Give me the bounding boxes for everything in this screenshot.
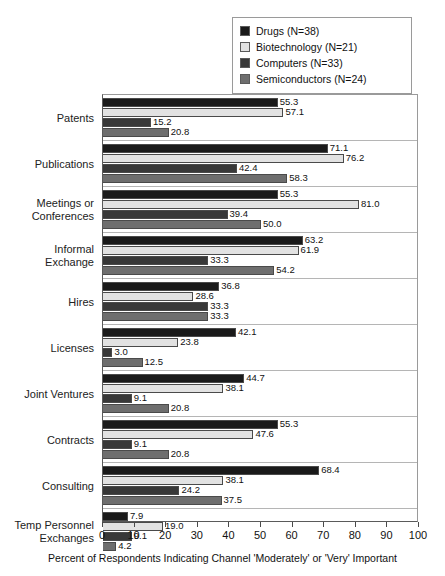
x-axis-tick-label: 60 bbox=[285, 528, 297, 542]
bar-row: 7.9 bbox=[103, 512, 417, 521]
bar[interactable] bbox=[103, 210, 228, 219]
bar[interactable] bbox=[103, 312, 208, 321]
legend-item-label: Computers (N=33) bbox=[256, 57, 343, 69]
bar[interactable] bbox=[103, 190, 278, 199]
bar[interactable] bbox=[103, 220, 261, 229]
bar-value-label: 68.4 bbox=[319, 464, 340, 476]
bar[interactable] bbox=[103, 430, 253, 439]
bar[interactable] bbox=[103, 98, 278, 107]
category-label: Joint Ventures bbox=[0, 388, 94, 401]
bar-row: 76.2 bbox=[103, 154, 417, 163]
bar[interactable] bbox=[103, 358, 143, 367]
bar[interactable] bbox=[103, 118, 151, 127]
category-label: Hires bbox=[0, 296, 94, 309]
bar-row: 39.4 bbox=[103, 210, 417, 219]
bar[interactable] bbox=[103, 512, 128, 521]
bar[interactable] bbox=[103, 476, 223, 485]
category-label: Informal Exchange bbox=[0, 243, 94, 269]
bar[interactable] bbox=[103, 174, 287, 183]
bar[interactable] bbox=[103, 246, 299, 255]
legend-item[interactable]: Semiconductors (N=24) bbox=[240, 71, 404, 86]
bar[interactable] bbox=[103, 450, 169, 459]
bar-value-label: 37.5 bbox=[222, 494, 243, 506]
bar[interactable] bbox=[103, 394, 132, 403]
bar[interactable] bbox=[103, 404, 169, 413]
bar[interactable] bbox=[103, 128, 169, 137]
bar-row: 47.6 bbox=[103, 430, 417, 439]
chart-legend: Drugs (N=38)Biotechnology (N=21)Computer… bbox=[232, 17, 412, 94]
bar-value-label: 47.6 bbox=[253, 428, 274, 440]
bar-value-label: 3.0 bbox=[112, 346, 127, 358]
bar-row: 61.9 bbox=[103, 246, 417, 255]
category-label: Licenses bbox=[0, 342, 94, 355]
bar-row: 9.1 bbox=[103, 440, 417, 449]
bar[interactable] bbox=[103, 154, 344, 163]
x-axis-tick bbox=[418, 522, 419, 527]
bar-row: 58.3 bbox=[103, 174, 417, 183]
bar[interactable] bbox=[103, 164, 237, 173]
legend-item[interactable]: Drugs (N=38) bbox=[240, 23, 404, 38]
bar[interactable] bbox=[103, 256, 208, 265]
bar-value-label: 55.3 bbox=[278, 188, 299, 200]
bar[interactable] bbox=[103, 466, 319, 475]
bar-value-label: 9.1 bbox=[132, 392, 147, 404]
bar-value-label: 38.1 bbox=[223, 382, 244, 394]
bar-row: 44.7 bbox=[103, 374, 417, 383]
x-axis-tick-label: 30 bbox=[191, 528, 203, 542]
bar-row: 33.3 bbox=[103, 312, 417, 321]
bar[interactable] bbox=[103, 420, 278, 429]
x-axis-tick-label: 70 bbox=[317, 528, 329, 542]
chart-group: 55.357.115.220.8 bbox=[103, 95, 417, 141]
bar[interactable] bbox=[103, 266, 274, 275]
bar-value-label: 54.2 bbox=[274, 264, 295, 276]
bar-row: 20.8 bbox=[103, 404, 417, 413]
bar-value-label: 44.7 bbox=[244, 372, 265, 384]
bar-value-label: 76.2 bbox=[344, 152, 365, 164]
bar[interactable] bbox=[103, 302, 208, 311]
bar-row: 12.5 bbox=[103, 358, 417, 367]
bar-value-label: 42.4 bbox=[237, 162, 258, 174]
bar[interactable] bbox=[103, 440, 132, 449]
bar-value-label: 23.8 bbox=[178, 336, 199, 348]
bar-row: 20.8 bbox=[103, 450, 417, 459]
legend-item[interactable]: Computers (N=33) bbox=[240, 55, 404, 70]
bar[interactable] bbox=[103, 236, 303, 245]
bar-row: 50.0 bbox=[103, 220, 417, 229]
bar-row: 71.1 bbox=[103, 144, 417, 153]
bar[interactable] bbox=[103, 348, 112, 357]
legend-item[interactable]: Biotechnology (N=21) bbox=[240, 39, 404, 54]
bar[interactable] bbox=[103, 144, 328, 153]
bar-value-label: 12.5 bbox=[143, 356, 164, 368]
category-label: Contracts bbox=[0, 434, 94, 447]
legend-swatch-icon bbox=[240, 26, 250, 36]
x-axis-tick bbox=[197, 522, 198, 527]
bar-row: 24.2 bbox=[103, 486, 417, 495]
x-axis-tick-label: 20 bbox=[159, 528, 171, 542]
bar[interactable] bbox=[103, 328, 236, 337]
bar[interactable] bbox=[103, 384, 223, 393]
bar-row: 54.2 bbox=[103, 266, 417, 275]
category-label: Meetings or Conferences bbox=[0, 197, 94, 223]
bar[interactable] bbox=[103, 496, 222, 505]
chart-group: 44.738.19.120.8 bbox=[103, 371, 417, 417]
category-label: Patents bbox=[0, 112, 94, 125]
x-axis-tick bbox=[355, 522, 356, 527]
chart-group: 63.261.933.354.2 bbox=[103, 233, 417, 279]
legend-swatch-icon bbox=[240, 58, 250, 68]
bar[interactable] bbox=[103, 292, 193, 301]
chart-group: 71.176.242.458.3 bbox=[103, 141, 417, 187]
x-axis-tick-label: 100 bbox=[409, 528, 427, 542]
bar-row: 81.0 bbox=[103, 200, 417, 209]
bar[interactable] bbox=[103, 486, 179, 495]
x-axis-tick bbox=[323, 522, 324, 527]
chart-group: 55.381.039.450.0 bbox=[103, 187, 417, 233]
bar-row: 33.3 bbox=[103, 302, 417, 311]
bar[interactable] bbox=[103, 108, 283, 117]
chart-group: 68.438.124.237.5 bbox=[103, 463, 417, 509]
x-axis-tick-label: 10 bbox=[127, 528, 139, 542]
x-axis-tick bbox=[134, 522, 135, 527]
x-axis-tick bbox=[260, 522, 261, 527]
chart-figure: Drugs (N=38)Biotechnology (N=21)Computer… bbox=[0, 0, 445, 576]
bar-row: 23.8 bbox=[103, 338, 417, 347]
legend-item-label: Semiconductors (N=24) bbox=[256, 73, 367, 85]
